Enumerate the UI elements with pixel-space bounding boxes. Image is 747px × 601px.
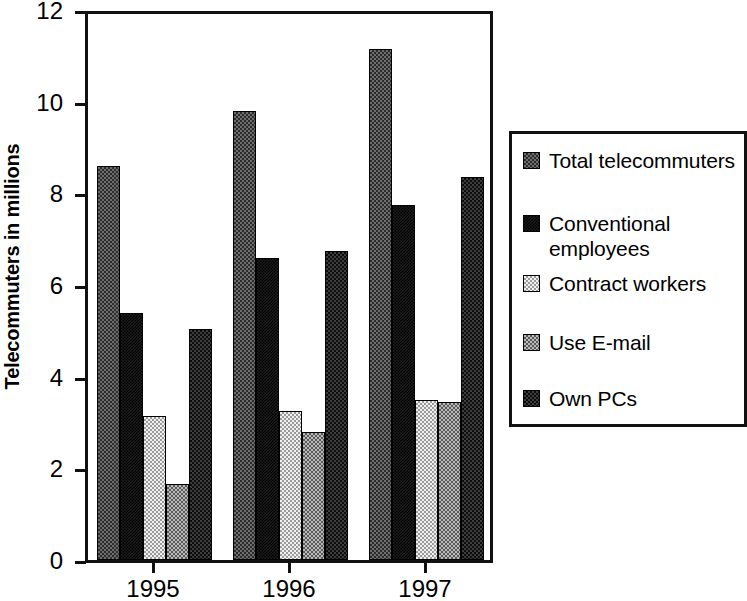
legend-item-label: Contract workers xyxy=(549,271,706,296)
y-axis-tick-label: 6 xyxy=(17,274,63,298)
y-axis-title: Telecommuters in millions xyxy=(1,87,24,447)
x-axis-tick-label-1997: 1997 xyxy=(370,577,480,601)
y-axis-tick-label: 0 xyxy=(17,549,63,573)
x-axis-tick-label-1996: 1996 xyxy=(234,577,344,601)
y-axis-tick-label: 2 xyxy=(17,457,63,481)
bar-1997-total-telecommuters xyxy=(369,49,392,560)
bar-1995-contract-workers xyxy=(143,416,166,560)
bar-1996-use-e-mail xyxy=(302,432,325,560)
bar-1997-own-pcs xyxy=(461,177,484,560)
legend-item-contract-workers[interactable]: Contract workers xyxy=(523,271,706,296)
legend-swatch-icon xyxy=(523,215,540,232)
bar-1995-own-pcs xyxy=(189,329,212,560)
legend-item-conventional-employees[interactable]: Conventional employees xyxy=(523,211,670,261)
legend-item-use-e-mail[interactable]: Use E-mail xyxy=(523,330,651,355)
y-axis-tick-label: 12 xyxy=(17,0,63,23)
legend-item-own-pcs[interactable]: Own PCs xyxy=(523,386,637,411)
legend-item-label: Use E-mail xyxy=(549,330,651,355)
bar-1996-total-telecommuters xyxy=(233,111,256,560)
legend-swatch-icon xyxy=(523,390,540,407)
legend-swatch-icon xyxy=(523,152,540,169)
legend-item-total-telecommuters[interactable]: Total telecommuters xyxy=(523,148,735,173)
y-axis-tick-label: 4 xyxy=(17,366,63,390)
legend-swatch-icon xyxy=(523,275,540,292)
chart-legend: Total telecommutersConventional employee… xyxy=(509,131,747,427)
legend-item-label: Conventional employees xyxy=(549,211,670,261)
bar-1997-conventional-employees xyxy=(392,205,415,560)
legend-swatch-icon xyxy=(523,334,540,351)
bar-1997-contract-workers xyxy=(415,400,438,560)
bar-1995-use-e-mail xyxy=(166,484,189,560)
bar-1996-conventional-employees xyxy=(256,258,279,561)
bar-1995-total-telecommuters xyxy=(97,166,120,560)
y-axis-tick-label: 8 xyxy=(17,182,63,206)
y-axis-tick-label: 10 xyxy=(17,91,63,115)
bar-1996-contract-workers xyxy=(279,411,302,560)
legend-item-label: Total telecommuters xyxy=(549,148,735,173)
bar-1995-conventional-employees xyxy=(120,313,143,561)
legend-item-label: Own PCs xyxy=(549,386,637,411)
plot-frame xyxy=(85,11,493,563)
x-axis-tick-label-1995: 1995 xyxy=(98,577,208,601)
bar-1997-use-e-mail xyxy=(438,402,461,560)
bar-1996-own-pcs xyxy=(325,251,348,560)
